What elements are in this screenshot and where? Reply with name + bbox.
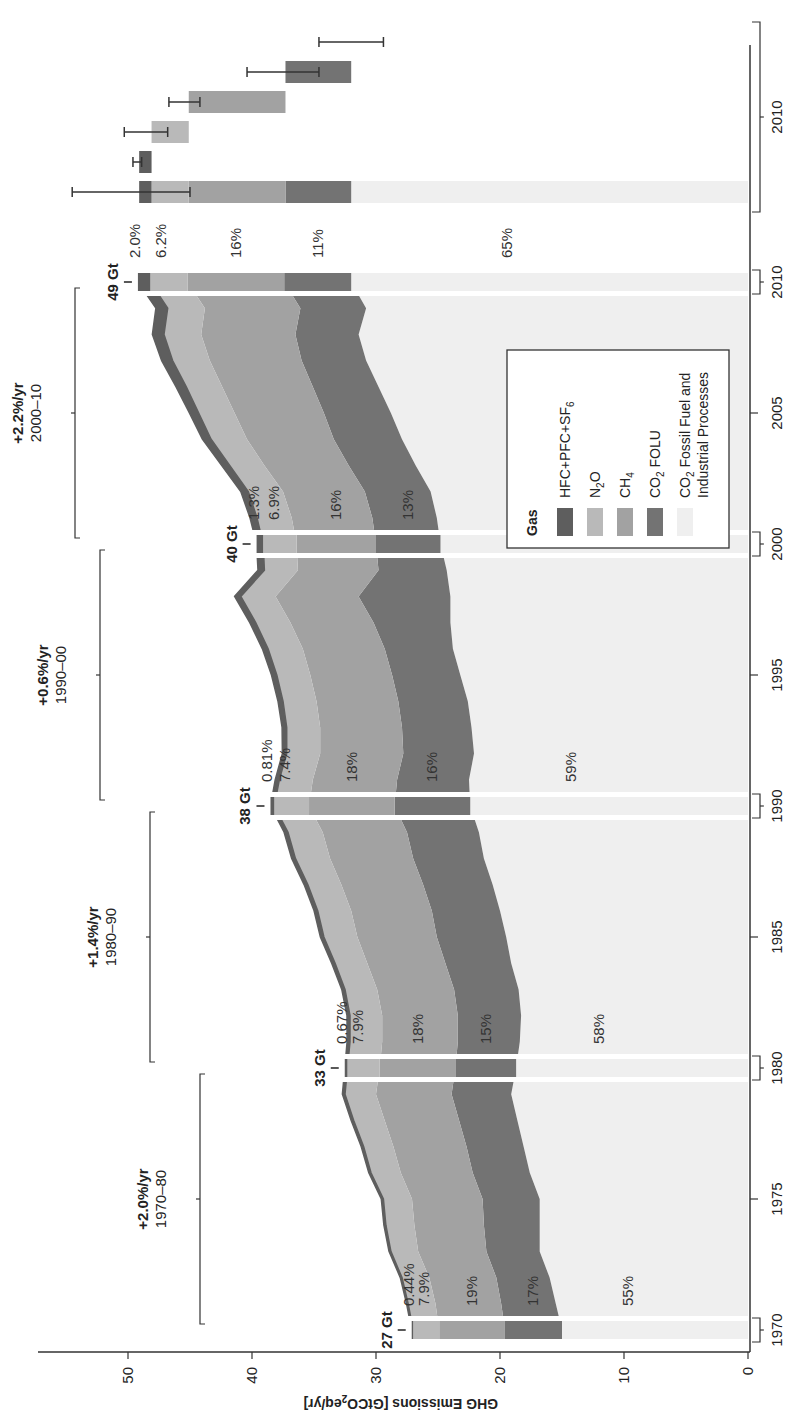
growth-rate-label: +2.0%/yr xyxy=(134,1168,151,1229)
time-bracket xyxy=(752,532,760,556)
growth-period-label: 1970–80 xyxy=(152,1170,169,1228)
legend-swatch-n2o xyxy=(587,508,603,536)
growth-rate-label: +0.6%/yr xyxy=(34,644,51,705)
snapshot-segment-fgas xyxy=(138,273,150,291)
snapshot-segment-co2_ff xyxy=(516,1059,748,1077)
snapshot-segment-n2o xyxy=(413,1321,439,1339)
time-tick-label: 2005 xyxy=(768,396,785,429)
share-n2o: 6.9% xyxy=(265,486,282,520)
growth-period-label: 1990–00 xyxy=(52,646,69,704)
share-fgas: 0.81% xyxy=(258,739,275,782)
share-co2-ff: 65% xyxy=(498,228,515,258)
breakdown-total-co2_ff xyxy=(351,181,748,203)
growth-period-label: 2000–10 xyxy=(27,384,44,442)
snapshot-segment-fgas xyxy=(257,535,264,553)
snapshot-total-label: 27 Gt xyxy=(378,1311,395,1349)
share-n2o: 7.4% xyxy=(276,748,293,782)
share-n2o: 7.9% xyxy=(349,1010,366,1044)
share-co2-ff: 55% xyxy=(619,1276,636,1306)
snapshot-segment-ch4 xyxy=(439,1321,505,1339)
share-co2-ff: 59% xyxy=(562,752,579,782)
breakdown-bracket xyxy=(752,22,760,212)
time-tick-label: 2000 xyxy=(768,527,785,560)
legend-swatch-co2_ff xyxy=(677,508,693,536)
share-fgas: 0.67% xyxy=(333,1001,350,1044)
legend-swatch-co2_folu xyxy=(647,508,663,536)
legend-label-line2: Industrial Processes xyxy=(695,372,711,498)
snapshot-segment-co2_folu xyxy=(455,1059,516,1077)
growth-period-label: 1980–90 xyxy=(102,908,119,966)
growth-rate-label: +2.2%/yr xyxy=(9,382,26,443)
share-ch4: 18% xyxy=(409,1014,426,1044)
share-fgas: 2.0% xyxy=(126,224,143,258)
snapshot-segment-n2o xyxy=(150,273,187,291)
share-ch4: 19% xyxy=(463,1276,480,1306)
snapshot-segment-fgas xyxy=(412,1321,413,1339)
share-co2-folu: 17% xyxy=(524,1276,541,1306)
time-tick-label: 1985 xyxy=(768,920,785,953)
value-tick-label: 0 xyxy=(739,1367,756,1375)
time-bracket xyxy=(752,794,760,818)
share-co2-folu: 11% xyxy=(309,229,326,258)
legend-swatch-ch4 xyxy=(617,508,633,536)
time-tick-label: 1970 xyxy=(768,1313,785,1346)
snapshot-segment-n2o xyxy=(274,797,309,815)
snapshot-segment-co2_ff xyxy=(562,1321,748,1339)
breakdown-bar-ch4 xyxy=(189,91,286,113)
breakdown-total-co2_folu xyxy=(285,181,351,203)
growth-bracket xyxy=(75,288,80,538)
value-axis-title: GHG Emissions [GtCO2eq/yr] xyxy=(303,1393,498,1412)
value-tick-label: 30 xyxy=(367,1367,384,1384)
share-n2o: 6.2% xyxy=(152,224,169,258)
time-tick-label: 1995 xyxy=(768,658,785,691)
value-tick-label: 40 xyxy=(243,1367,260,1384)
share-co2-folu: 13% xyxy=(399,490,416,520)
growth-bracket xyxy=(200,1074,205,1324)
breakdown-total-ch4 xyxy=(189,181,286,203)
breakdown-tick-label: 2010 xyxy=(768,100,785,133)
snapshot-total-label: 40 Gt xyxy=(223,525,240,563)
time-tick-label: 2010 xyxy=(768,265,785,298)
snapshot-segment-fgas xyxy=(270,797,274,815)
growth-rate-label: +1.4%/yr xyxy=(84,906,101,967)
snapshot-segment-co2_ff xyxy=(351,273,748,291)
snapshot-segment-ch4 xyxy=(309,797,395,815)
ghg-emissions-chart: 27 Gt33 Gt38 Gt40 Gt49 Gt 55%17%19%7.9%0… xyxy=(0,0,809,1417)
share-co2-folu: 16% xyxy=(423,752,440,782)
time-tick-label: 1975 xyxy=(768,1182,785,1215)
share-co2-folu: 15% xyxy=(477,1014,494,1044)
legend-title: Gas xyxy=(524,509,540,536)
share-ch4: 18% xyxy=(343,752,360,782)
share-ch4: 16% xyxy=(227,228,244,258)
snapshot-total-label: 49 Gt xyxy=(104,263,121,301)
snapshot-total-label: 38 Gt xyxy=(236,787,253,825)
growth-bracket xyxy=(100,550,105,800)
snapshot-segment-co2_folu xyxy=(395,797,471,815)
time-bracket xyxy=(752,1318,760,1342)
value-tick-label: 10 xyxy=(615,1367,632,1384)
breakdown-2010 xyxy=(72,37,748,203)
snapshot-total-label: 33 Gt xyxy=(311,1049,328,1087)
share-fgas: 0.44% xyxy=(400,1263,417,1306)
snapshot-segment-co2_ff xyxy=(470,797,748,815)
time-tick-label: 1980 xyxy=(768,1051,785,1084)
snapshot-segment-ch4 xyxy=(188,273,285,291)
snapshot-segment-co2_folu xyxy=(376,535,440,553)
snapshot-segment-n2o xyxy=(347,1059,379,1077)
snapshot-segment-co2_folu xyxy=(284,273,351,291)
value-tick-label: 20 xyxy=(491,1367,508,1384)
snapshot-segment-ch4 xyxy=(380,1059,456,1077)
time-bracket xyxy=(752,1056,760,1080)
share-co2-ff: 58% xyxy=(590,1014,607,1044)
share-fgas: 1.3% xyxy=(245,486,262,520)
value-tick-label: 50 xyxy=(119,1367,136,1384)
time-tick-label: 1990 xyxy=(768,789,785,822)
snapshot-segment-n2o xyxy=(263,535,296,553)
legend-swatch-fgas xyxy=(557,508,573,536)
snapshot-segment-ch4 xyxy=(297,535,376,553)
snapshot-segment-fgas xyxy=(345,1059,348,1077)
chart-stage: 27 Gt33 Gt38 Gt40 Gt49 Gt 55%17%19%7.9%0… xyxy=(0,0,809,1417)
snapshot-segment-co2_folu xyxy=(505,1321,562,1339)
share-n2o: 7.9% xyxy=(415,1272,432,1306)
time-bracket xyxy=(752,270,760,294)
